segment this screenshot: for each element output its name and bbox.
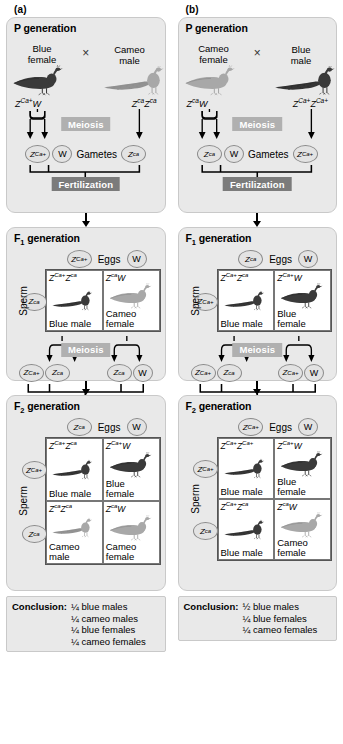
parent-female-bird [11, 65, 73, 96]
fertilization-banner: Fertilization [51, 177, 120, 191]
conclusion-item: ½ blue males [242, 601, 317, 613]
eggs-row: ZCa+ Eggs W [183, 417, 333, 437]
gamete-circle: ZCa+ [19, 364, 44, 382]
eggs-label: Eggs [269, 254, 292, 265]
meiosis-band: Meiosis [7, 109, 165, 143]
conclusion-list: ¼ blue males¼ cameo males¼ blue females¼… [71, 601, 146, 647]
gamete-circle: Zca [217, 364, 242, 382]
punnett-cell-phenotype: Blue male [221, 487, 272, 497]
blue-peahen-illustration [277, 283, 328, 309]
punnett-cell: ZCa+Zca Blue mal [218, 270, 275, 331]
gamete-circle: W [224, 145, 244, 163]
punnett-square: ZCa+ Eggs W Sperm Zca ZCa+Zca [7, 247, 165, 336]
sperm-gamete: Zca [193, 520, 218, 541]
punnett-cell-bird [221, 451, 272, 487]
connector-f1-to-f2 [4, 381, 168, 395]
f1-generation-title: F1 generation [14, 232, 165, 247]
punnett-cell-bird [221, 512, 272, 548]
gametes-label: Gametes [74, 149, 119, 160]
fertilization-band: Fertilization [179, 165, 337, 201]
cross-symbol: × [254, 46, 261, 60]
punnett-cell-bird [49, 514, 100, 542]
gamete-circle: Zca [238, 250, 263, 268]
sperm-column: Sperm ZCa+ [183, 269, 217, 332]
eggs-label: Eggs [98, 254, 121, 265]
f1-gametes-left: ZCa+Zca [19, 364, 70, 382]
parent-male-label: Cameomale [99, 45, 161, 66]
gametes-label: Gametes [246, 149, 291, 160]
parent-female: Cameofemale [183, 44, 245, 96]
punnett-cell: ZcaW Cameofemale [103, 270, 160, 331]
blue-peacock-illustration [270, 66, 343, 96]
blue-peacock-illustration [49, 456, 100, 484]
punnett-cell-genotype: ZCa+Zca [49, 440, 100, 451]
punnett-cell-bird [49, 451, 100, 489]
parent-male: Cameomale [99, 45, 161, 96]
gamete-circle: Zca [67, 418, 92, 436]
cameo-peacock-illustration [99, 66, 175, 96]
gametes-row: ZCa+ W Gametes Zca [7, 143, 165, 165]
f1-generation-stage: F1 generation Zca Eggs W Sperm ZCa+ ZCa+… [178, 227, 338, 381]
sperm-column: Sperm ZCa+Zca [11, 437, 45, 565]
gamete-circle: Zca [45, 364, 70, 382]
gamete-circle: ZCa+ [67, 250, 92, 268]
punnett-cell-bird [106, 514, 157, 542]
gamete-circle: ZCa+ [278, 364, 303, 382]
punnett-body: Sperm ZCa+ ZCa+Zca [183, 269, 333, 332]
meiosis-banner: Meiosis [232, 117, 282, 131]
conclusion-label: Conclusion: [12, 601, 67, 612]
f1-meiosis-band: Meiosis [7, 336, 165, 362]
conclusion-item: ¼ cameo females [242, 624, 317, 636]
gamete-circle: W [133, 364, 153, 382]
gamete-circle: ZCa+ [193, 460, 218, 478]
punnett-square: Zca Eggs W Sperm ZCa+Zca ZCa+Zca [7, 415, 165, 569]
f2-generation-title: F2 generation [14, 400, 165, 415]
gamete-circle: W [127, 418, 147, 436]
cross-symbol: × [82, 46, 89, 60]
cameo-peahen-illustration [277, 512, 328, 538]
conclusion-item: ¼ cameo males [71, 613, 146, 625]
sperm-column: Sperm ZCa+Zca [183, 437, 217, 561]
meiosis-banner: Meiosis [61, 117, 111, 131]
punnett-body: Sperm Zca ZCa+Zca [11, 269, 161, 332]
conclusion-list: ½ blue males¼ blue females¼ cameo female… [242, 601, 317, 636]
sperm-label: Sperm [190, 484, 201, 513]
f1-gametes-left: ZCa+Zca [191, 364, 242, 382]
parent-female-bird [183, 65, 245, 96]
gamete-circle: W [127, 250, 147, 268]
punnett-square: Zca Eggs W Sperm ZCa+ ZCa+Zca [179, 247, 337, 336]
f1-meiosis-banner: Meiosis [61, 343, 111, 357]
blue-peahen-illustration [11, 65, 67, 96]
punnett-cell-phenotype: Blue male [49, 319, 100, 329]
panel-a: (a) P generation Bluefemale × Cameomale [0, 0, 172, 744]
punnett-cell: ZCa+Zca Blue mal [218, 499, 275, 560]
f2-generation-stage: F2 generation Zca Eggs W Sperm ZCa+Zca Z… [6, 395, 166, 591]
conclusion-item: ¼ blue females [71, 624, 146, 636]
gamete-circle: ZCa+ [293, 145, 318, 163]
sperm-label: Sperm [18, 286, 29, 315]
connector-p-to-f1 [4, 213, 168, 227]
blue-peacock-illustration [49, 287, 100, 315]
punnett-cell: ZCa+Zca Blue mal [46, 438, 103, 501]
conclusion-label: Conclusion: [184, 601, 239, 612]
gamete-circle: W [304, 364, 324, 382]
punnett-cell-genotype: ZcaW [277, 501, 328, 512]
punnett-cell: ZCa+W Bluefemale [274, 438, 331, 499]
gamete-circle: W [298, 250, 318, 268]
punnett-cell: ZCa+Zca Blue mal [46, 270, 103, 331]
punnett-cell-phenotype: Cameofemale [106, 542, 157, 562]
gamete-circle: ZCa+ [25, 145, 50, 163]
parent-female-label: Cameofemale [183, 44, 245, 65]
punnett-cell-bird [49, 283, 100, 319]
punnett-grid: ZCa+Zca Blue mal [45, 437, 161, 565]
punnett-cell-phenotype: Bluefemale [106, 479, 157, 499]
punnett-cell-bird [277, 451, 328, 477]
female-genotype: ZcaW [187, 97, 208, 109]
punnett-grid: ZCa+Zca Blue mal [45, 269, 161, 332]
eggs-row: Zca Eggs W [183, 249, 333, 269]
parent-female-label: Bluefemale [11, 44, 73, 65]
punnett-cell: ZcaZca Cameomale [46, 501, 103, 564]
punnett-cell: ZcaW Cameofemale [274, 499, 331, 560]
punnett-cell-phenotype: Blue male [49, 489, 100, 499]
parent-male: Bluemale [270, 45, 332, 96]
